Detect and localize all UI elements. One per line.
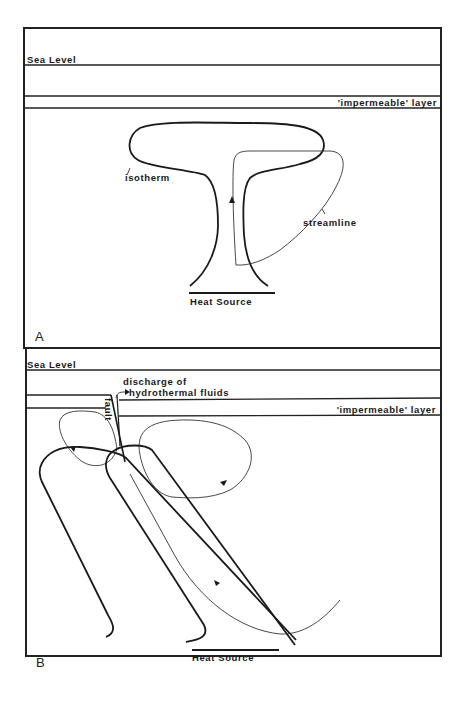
- impermeable-bottom-right-b: [119, 415, 441, 416]
- sea-level-label-a: Sea Level: [27, 54, 76, 65]
- panel-b: Sea Level 'impermeable' layer fault disc…: [26, 359, 441, 670]
- isotherm-label-a: isotherm: [125, 172, 170, 183]
- impermeable-label-b: 'impermeable' layer: [337, 404, 436, 415]
- streamline-right-loop-b: [139, 420, 251, 498]
- flow-arrow-diagonal-icon-b: [214, 580, 220, 586]
- heat-source-label-b: Heat Source: [192, 652, 254, 663]
- panel-label-a: A: [35, 329, 44, 344]
- streamline-loop-a: [233, 151, 343, 265]
- flow-arrow-up-icon-a: [229, 196, 235, 203]
- fault-line-inner-b: [117, 395, 120, 446]
- panel-label-b: B: [36, 655, 45, 670]
- impermeable-top-right-b: [119, 398, 441, 400]
- impermeable-label-a: 'impermeable' layer: [338, 97, 437, 108]
- hydrothermal-diagram: Sea Level 'impermeable' layer isotherm s…: [0, 0, 461, 701]
- isotherm-curve-a: [130, 122, 324, 286]
- isotherm-plume-b2: [106, 446, 295, 646]
- streamline-leader-a: [322, 209, 325, 214]
- panel-a: Sea Level 'impermeable' layer isotherm s…: [24, 54, 441, 344]
- streamline-gap-a: [290, 213, 300, 221]
- discharge-label-line1: discharge of: [123, 376, 187, 387]
- sea-level-label-b: Sea Level: [27, 359, 76, 370]
- flow-arrow-right-icon-b: [220, 480, 227, 486]
- fault-label-b: fault: [103, 398, 114, 421]
- streamline-label-a: streamline: [303, 217, 357, 228]
- streamline-long-b: [130, 474, 340, 634]
- heat-source-label-a: Heat Source: [190, 296, 252, 307]
- discharge-label-line2: hydrothermal fluids: [129, 387, 229, 398]
